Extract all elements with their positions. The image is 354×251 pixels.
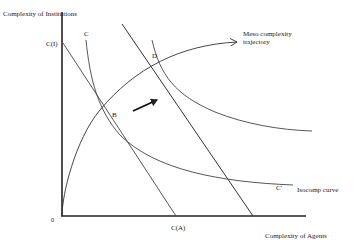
isocomp-curve-label: Isocomp curve xyxy=(297,186,338,194)
x-axis-label: Complexity of Agents xyxy=(265,232,327,240)
budget-line-ci-ca xyxy=(63,43,176,216)
direction-arrow xyxy=(133,100,157,111)
point-d-label: D xyxy=(152,52,157,60)
y-axis-label: Complexity of Institutions xyxy=(3,10,58,18)
curve-c-label: C xyxy=(84,30,89,38)
isocomp-curve-inner xyxy=(86,40,293,185)
ci-intercept-label: C(I) xyxy=(46,40,58,48)
budget-line-outer xyxy=(122,24,253,216)
ca-intercept-label: C(A) xyxy=(171,224,186,232)
meso-trajectory-label: Meso complexity trajectory xyxy=(243,30,303,46)
curve-c-prime-label: C' xyxy=(276,184,282,192)
origin-label: 0 xyxy=(51,217,54,223)
point-b-label: B xyxy=(112,111,117,119)
meso-trajectory-curve xyxy=(62,42,237,216)
isocomp-curve-outer xyxy=(152,40,312,131)
